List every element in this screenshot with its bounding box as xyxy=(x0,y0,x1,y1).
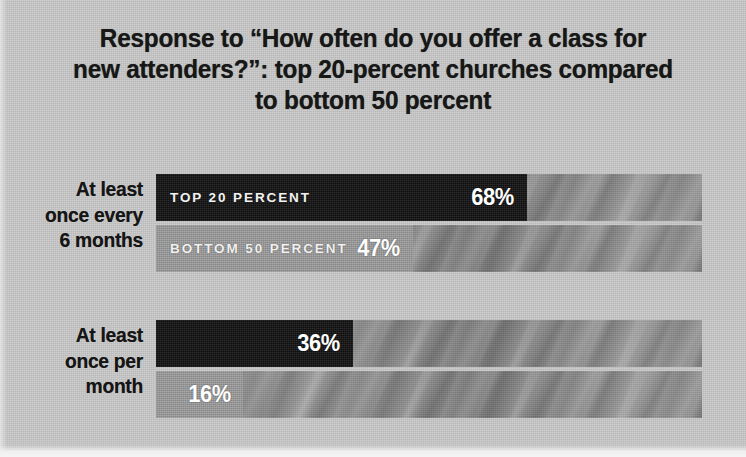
bar-track-bottom50-g0: BOTTOM 50 PERCENT 47% xyxy=(156,225,702,272)
bar-bottom50-once-every-6-months[interactable]: BOTTOM 50 PERCENT 47% xyxy=(156,225,413,272)
page-edge-bottom xyxy=(0,445,746,457)
bar-track-top20-g0: TOP 20 PERCENT 68% xyxy=(156,174,702,221)
chart-title-line-2: new attenders?”: top 20-percent churches… xyxy=(44,54,703,85)
category-label-once-per-month: At least once per month xyxy=(16,322,143,399)
category-label-line-2: once every xyxy=(16,202,143,228)
value-label-top20-once-every-6-months: 68% xyxy=(472,174,515,221)
chart-title-line-1: Response to “How often do you offer a cl… xyxy=(44,23,703,54)
value-label-top20-once-per-month: 36% xyxy=(297,320,340,367)
series-label-bottom-50-percent: BOTTOM 50 PERCENT xyxy=(170,225,348,272)
chart-figure: Response to “How often do you offer a cl… xyxy=(0,0,746,457)
bar-top20-once-per-month[interactable]: 36% xyxy=(156,320,353,367)
bar-group-once-every-6-months: At least once every 6 months TOP 20 PERC… xyxy=(0,168,746,276)
series-label-top-20-percent: TOP 20 PERCENT xyxy=(170,174,311,221)
bar-track-top20-g1: 36% xyxy=(156,320,702,367)
category-label-line-3: 6 months xyxy=(16,227,143,253)
bar-group-once-per-month: At least once per month 36% 16% xyxy=(0,314,746,419)
value-label-bottom50-once-every-6-months: 47% xyxy=(357,225,400,272)
category-label-once-every-6-months: At least once every 6 months xyxy=(16,176,143,253)
bar-bottom50-once-per-month[interactable]: 16% xyxy=(156,371,243,418)
chart-title: Response to “How often do you offer a cl… xyxy=(44,23,703,116)
category-label-line-2: once per xyxy=(16,348,143,374)
category-label-line-1: At least xyxy=(16,322,143,348)
plot-area: At least once every 6 months TOP 20 PERC… xyxy=(0,168,746,426)
category-label-line-1: At least xyxy=(16,176,143,202)
bar-top20-once-every-6-months[interactable]: TOP 20 PERCENT 68% xyxy=(156,174,527,221)
category-label-line-3: month xyxy=(16,373,143,399)
chart-title-line-3: to bottom 50 percent xyxy=(44,85,703,116)
value-label-bottom50-once-per-month: 16% xyxy=(188,371,231,418)
bar-track-bottom50-g1: 16% xyxy=(156,371,702,418)
